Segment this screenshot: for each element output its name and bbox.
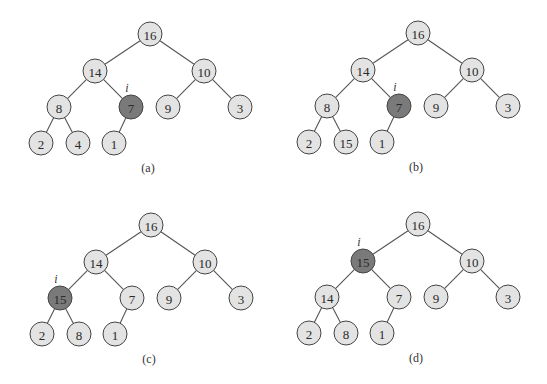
node-value: 10 [466, 64, 479, 79]
node-value: 1 [379, 136, 386, 151]
node-value: 16 [144, 28, 158, 43]
node-value: 2 [39, 328, 46, 343]
heap-node: 15 [351, 249, 375, 273]
tree-edge [68, 270, 87, 289]
node-value: 14 [89, 65, 103, 80]
tree-edge [104, 270, 123, 289]
tree-edge [161, 232, 195, 255]
node-value: 1 [379, 327, 386, 342]
node-value: 7 [128, 101, 135, 116]
node-value: 16 [412, 27, 426, 42]
index-marker-i: i [54, 272, 57, 286]
tree-edge [66, 309, 74, 324]
node-value: 9 [433, 100, 440, 115]
node-value: 3 [237, 101, 244, 116]
heap-panel-b: 16141087i932151(b) [297, 21, 520, 174]
heap-node: 10 [460, 249, 484, 273]
index-marker-i: i [357, 235, 360, 249]
heap-node: 9 [156, 95, 180, 119]
tree-edge [314, 117, 321, 132]
panel-caption: (c) [142, 352, 155, 366]
heap-node: 1 [102, 131, 126, 155]
tree-edge [160, 41, 194, 64]
heap-node: 3 [228, 95, 252, 119]
tree-edge [373, 40, 408, 64]
tree-edge [119, 118, 126, 132]
panel-caption: (a) [141, 161, 154, 175]
tree-edge [333, 117, 341, 132]
node-value: 4 [75, 137, 82, 152]
node-value: 8 [343, 327, 350, 342]
heap-node: 9 [424, 285, 448, 309]
heap-node: 3 [229, 286, 253, 310]
tree-edge [212, 79, 231, 98]
heap-node: 8 [67, 322, 91, 346]
tree-edge [120, 309, 127, 323]
heap-node: 15 [334, 130, 358, 154]
panel-caption: (d) [409, 351, 423, 365]
heap-node: 9 [424, 94, 448, 118]
node-value: 16 [412, 218, 426, 233]
node-value: 1 [111, 137, 118, 152]
heap-panel-d: 1615i1014793281(d) [297, 212, 520, 365]
heap-diagram: 16141087i93241(a)16141087i932151(b)16141… [0, 0, 547, 384]
tree-edge [47, 309, 54, 324]
node-value: 9 [166, 292, 173, 307]
heap-node: 10 [460, 58, 484, 82]
heap-node: 16 [406, 21, 430, 45]
node-value: 15 [54, 292, 67, 307]
node-value: 14 [357, 64, 371, 79]
heap-node: 2 [30, 322, 54, 346]
tree-edge [103, 79, 122, 98]
node-value: 9 [433, 291, 440, 306]
node-value: 7 [129, 292, 136, 307]
node-value: 14 [90, 256, 104, 271]
node-value: 15 [340, 136, 353, 151]
heap-node: 14 [315, 285, 339, 309]
heap-node: 8 [315, 94, 339, 118]
node-value: 16 [145, 219, 159, 234]
heap-node: 4 [66, 131, 90, 155]
heap-node: 10 [193, 250, 217, 274]
node-value: 2 [38, 137, 45, 152]
tree-edge [428, 40, 462, 63]
heap-panel-c: 16141015i793281(c) [30, 213, 253, 366]
tree-edge [177, 270, 196, 289]
heap-node: 8 [334, 321, 358, 345]
tree-edge [387, 308, 394, 322]
heap-node: 16 [139, 213, 163, 237]
heap-node: 1 [370, 321, 394, 345]
node-value: 2 [306, 136, 313, 151]
tree-edge [371, 78, 390, 97]
heap-node: 3 [496, 285, 520, 309]
heap-node: 7 [120, 286, 144, 310]
heap-panel-a: 16141087i93241(a) [29, 22, 252, 175]
tree-edge [65, 118, 73, 133]
heap-node: 14 [351, 58, 375, 82]
node-value: 10 [199, 256, 212, 271]
heap-node: 7 [387, 285, 411, 309]
heap-node: 16 [138, 22, 162, 46]
node-value: 1 [112, 328, 119, 343]
index-marker-i: i [125, 81, 128, 95]
tree-edge [213, 270, 232, 289]
tree-edge [105, 41, 140, 65]
tree-edge [314, 308, 321, 323]
tree-edge [335, 269, 354, 288]
heap-node: 7 [387, 94, 411, 118]
heap-node: 3 [496, 94, 520, 118]
tree-edge [373, 231, 408, 255]
panel-caption: (b) [409, 160, 423, 174]
tree-edge [335, 78, 354, 97]
tree-edge [176, 79, 195, 98]
tree-edge [428, 231, 462, 254]
node-value: 3 [505, 291, 512, 306]
heap-node: 7 [119, 95, 143, 119]
node-value: 9 [165, 101, 172, 116]
tree-edge [444, 269, 463, 288]
heap-node: 8 [47, 95, 71, 119]
tree-edge [480, 269, 499, 288]
tree-edge [444, 78, 463, 97]
node-value: 10 [198, 65, 211, 80]
node-value: 10 [466, 255, 479, 270]
